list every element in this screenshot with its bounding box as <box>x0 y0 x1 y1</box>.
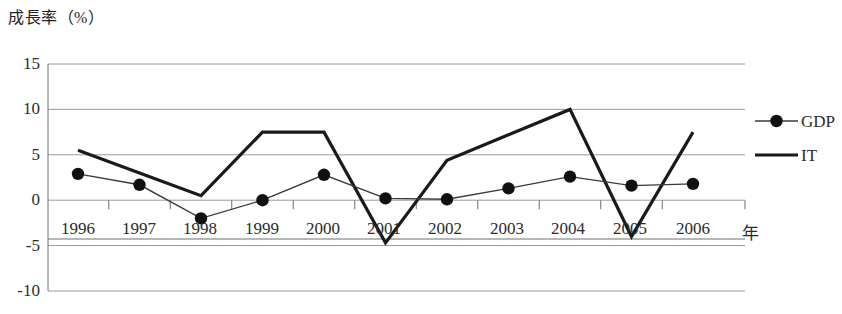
x-tick-label-1996: 1996 <box>61 219 95 239</box>
gdp-data-point-marker <box>318 169 330 181</box>
gdp-data-point-marker <box>441 193 453 205</box>
legend-marker-gdp <box>770 115 782 127</box>
x-tick-label-1999: 1999 <box>245 219 279 239</box>
gdp-data-point-marker <box>72 168 84 180</box>
legend-label-it: IT <box>801 146 817 166</box>
plot-area <box>0 0 842 314</box>
gdp-data-point-marker <box>502 182 514 194</box>
x-tick-label-2001: 2001 <box>367 219 401 239</box>
y-tick-label-15: 15 <box>0 54 40 74</box>
y-tick-label--10: -10 <box>0 281 40 301</box>
legend-symbols <box>755 115 798 155</box>
chart-axis-title: 成長率（%） <box>8 4 104 28</box>
gdp-data-point-marker <box>256 194 268 206</box>
growth-rate-line-chart: 成長率（%） 15 10 5 0 -5 -10 1996 1997 1998 1… <box>0 0 842 314</box>
x-tick-label-2006: 2006 <box>676 219 710 239</box>
x-tick-label-2003: 2003 <box>490 219 524 239</box>
x-tick-label-1998: 1998 <box>183 219 217 239</box>
y-tick-label--5: -5 <box>0 236 40 256</box>
gdp-data-point-marker <box>625 179 637 191</box>
gdp-data-point-marker <box>133 179 145 191</box>
gdp-data-point-marker <box>687 178 699 190</box>
x-tick-label-2004: 2004 <box>551 219 585 239</box>
x-tick-label-2002: 2002 <box>428 219 462 239</box>
gdp-data-point-marker <box>564 170 576 182</box>
x-tick-label-2000: 2000 <box>306 219 340 239</box>
x-tick-label-2005: 2005 <box>613 219 647 239</box>
legend-label-gdp: GDP <box>801 112 835 132</box>
gdp-data-point-marker <box>379 192 391 204</box>
y-tick-label-10: 10 <box>0 99 40 119</box>
x-axis-unit-label: 年 <box>742 219 759 244</box>
y-tick-label-0: 0 <box>0 190 40 210</box>
y-tick-label-5: 5 <box>0 145 40 165</box>
series-line-gdp <box>72 168 699 225</box>
x-tick-label-1997: 1997 <box>122 219 156 239</box>
